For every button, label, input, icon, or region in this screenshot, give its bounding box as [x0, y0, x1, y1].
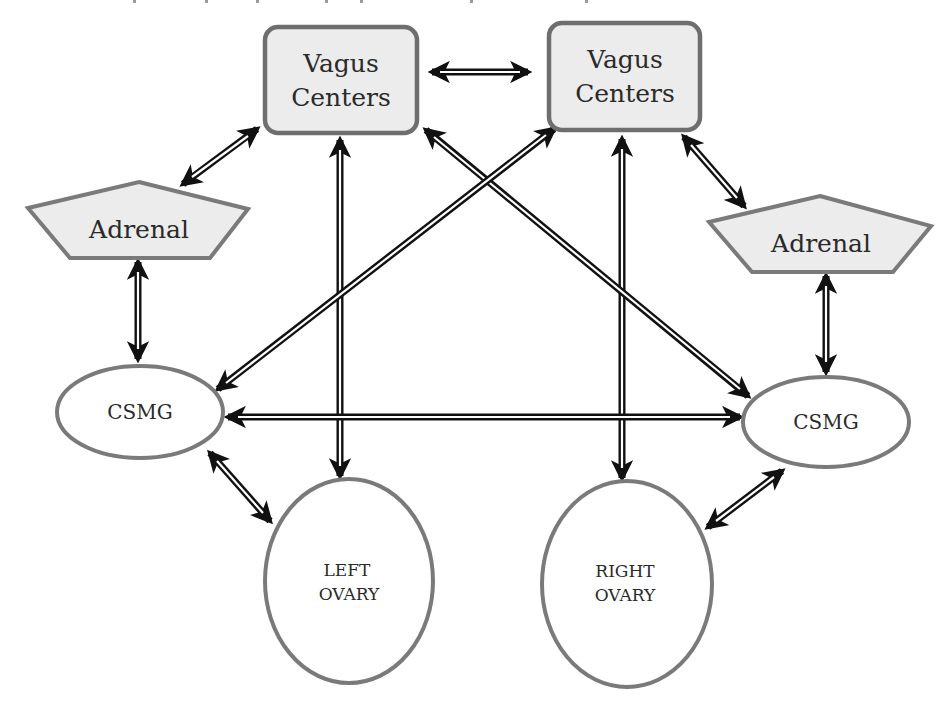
- vagus-right-label-line1: Vagus: [586, 45, 663, 74]
- diagram-canvas: Vagus Centers Vagus Centers Adrenal Adre…: [0, 0, 951, 701]
- cropped-caption-fragment: [133, 0, 588, 3]
- arrow-vagus-left-csmg-right: [426, 130, 748, 396]
- vagus-left-box: [265, 27, 417, 133]
- right-ovary-label-line2: OVARY: [595, 585, 656, 605]
- right-ovary-label-line1: RIGHT: [595, 561, 655, 581]
- arrow-csmg-left-ovary-left: [210, 453, 270, 521]
- vagus-left-label-line1: Vagus: [302, 49, 379, 78]
- csmg-left-label: CSMG: [107, 400, 172, 424]
- arrow-vagus-right-csmg-left: [218, 129, 554, 389]
- adrenal-left-label: Adrenal: [88, 215, 189, 244]
- node-right-ovary: RIGHT OVARY: [542, 481, 712, 687]
- node-vagus-centers-left: Vagus Centers: [265, 27, 417, 133]
- right-ovary-ellipse: [542, 481, 712, 687]
- arrow-vagus-right-adrenal-right: [684, 137, 744, 206]
- arrow-vagus-left-adrenal-left: [183, 129, 257, 184]
- left-ovary-label-line2: OVARY: [319, 584, 380, 604]
- node-csmg-left: CSMG: [57, 366, 223, 458]
- arrow-csmg-right-ovary-right: [708, 471, 782, 527]
- left-ovary-ellipse: [265, 479, 433, 683]
- csmg-right-label: CSMG: [793, 410, 858, 434]
- node-adrenal-left: Adrenal: [28, 182, 248, 258]
- left-ovary-label-line1: LEFT: [324, 560, 371, 580]
- node-vagus-centers-right: Vagus Centers: [549, 23, 700, 130]
- vagus-right-label-line2: Centers: [575, 79, 675, 108]
- vagus-right-box: [549, 23, 700, 130]
- arrows: [138, 72, 826, 527]
- adrenal-right-label: Adrenal: [770, 229, 871, 258]
- node-left-ovary: LEFT OVARY: [265, 479, 433, 683]
- vagus-left-label-line2: Centers: [291, 83, 391, 112]
- node-csmg-right: CSMG: [743, 377, 909, 467]
